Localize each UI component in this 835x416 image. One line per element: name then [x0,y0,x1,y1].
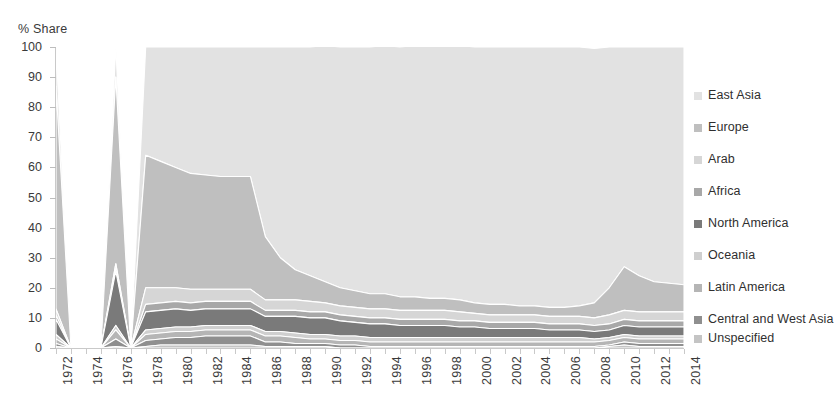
x-axis-tick-label: 2010 [629,356,643,385]
x-axis-tick-mark [415,349,416,354]
legend-item[interactable]: Central and West Asia [694,312,834,327]
x-axis-tick-mark [131,349,132,354]
y-axis-tick-label: 40 [8,221,42,235]
y-axis-tick-label: 100 [8,40,42,54]
x-axis-tick-label: 1984 [240,356,254,385]
legend-swatch-icon [694,284,702,292]
legend-item-label: Latin America [708,280,785,295]
legend-item-label: Central and West Asia [708,312,834,327]
x-axis-tick-mark [684,349,685,354]
x-axis-tick-mark [280,349,281,354]
x-axis-tick-label: 1976 [121,356,135,385]
x-axis-tick-label: 1974 [91,356,105,385]
legend-swatch-icon [694,92,702,100]
y-axis-tick-label: 50 [8,191,42,205]
x-axis-tick-label: 1972 [61,356,75,385]
x-axis-tick-mark [220,349,221,354]
legend-item-label: North America [708,216,789,231]
x-axis-tick-mark [624,349,625,354]
x-axis-tick-label: 1990 [330,356,344,385]
x-axis-tick-mark [265,349,266,354]
x-axis-tick-mark [490,349,491,354]
legend-item-label: Unspecified [708,331,774,346]
x-axis-tick-mark [146,349,147,354]
x-axis-tick-label: 1994 [390,356,404,385]
x-axis-tick-mark [445,349,446,354]
x-axis-tick-label: 2004 [539,356,553,385]
x-axis-tick-mark [475,349,476,354]
legend-item[interactable]: North America [694,216,834,231]
x-axis-tick-label: 1986 [270,356,284,385]
x-axis-tick-mark [594,349,595,354]
x-axis-tick-mark [520,349,521,354]
x-axis-tick-label: 1980 [181,356,195,385]
x-axis-tick-label: 1992 [360,356,374,385]
x-axis-tick-mark [579,349,580,354]
x-axis-tick-mark [669,349,670,354]
x-axis-tick-mark [101,349,102,354]
x-axis-tick-mark [206,349,207,354]
x-axis-tick-mark [86,349,87,354]
legend-item[interactable]: Unspecified [694,331,834,346]
legend-item[interactable]: Africa [694,184,834,199]
x-axis-tick-mark [370,349,371,354]
x-axis-tick-mark [400,349,401,354]
legend-swatch-icon [694,188,702,196]
y-axis-tick-label: 60 [8,160,42,174]
x-axis-tick-mark [116,349,117,354]
legend-swatch-icon [694,156,702,164]
x-axis-tick-mark [460,349,461,354]
legend-item-label: Europe [708,120,749,135]
x-axis-tick-mark [385,349,386,354]
x-axis-tick-label: 2008 [599,356,613,385]
x-axis-tick-mark [609,349,610,354]
legend-swatch-icon [694,252,702,260]
legend-item[interactable]: Arab [694,152,834,167]
x-axis-tick-label: 1978 [151,356,165,385]
x-axis-tick-mark [639,349,640,354]
x-axis-tick-label: 2012 [659,356,673,385]
x-axis-tick-label: 2002 [510,356,524,385]
x-axis-tick-mark [534,349,535,354]
x-axis-tick-mark [654,349,655,354]
x-axis-tick-mark [191,349,192,354]
x-axis-tick-mark [176,349,177,354]
x-axis-tick-mark [325,349,326,354]
x-axis-tick-mark [161,349,162,354]
legend-swatch-icon [694,124,702,132]
plot-area [56,47,684,348]
y-axis-tick-label: 70 [8,130,42,144]
legend-swatch-icon [694,335,702,343]
x-axis-tick-mark [340,349,341,354]
x-axis-tick-mark [564,349,565,354]
legend-item-label: Africa [708,184,741,199]
y-axis-tick-label: 30 [8,251,42,265]
legend-item[interactable]: Latin America [694,280,834,295]
legend-swatch-icon [694,220,702,228]
y-axis-tick-label: 90 [8,70,42,84]
legend-item[interactable]: Oceania [694,248,834,263]
x-axis-tick-label: 1998 [450,356,464,385]
x-axis-tick-mark [250,349,251,354]
x-axis-tick-mark [235,349,236,354]
x-axis-tick-mark [56,349,57,354]
x-axis-tick-mark [71,349,72,354]
x-axis-tick-label: 2006 [569,356,583,385]
x-axis-tick-mark [549,349,550,354]
y-axis-tick-label: 10 [8,311,42,325]
x-axis-tick-mark [310,349,311,354]
x-axis-tick-label: 2000 [480,356,494,385]
x-axis-tick-label: 1988 [300,356,314,385]
x-axis-tick-label: 1996 [420,356,434,385]
legend-item-label: East Asia [708,88,761,103]
stacked-area-svg [56,47,684,348]
legend-item-label: Arab [708,152,735,167]
y-axis-title: % Share [18,22,67,36]
x-axis-tick-mark [430,349,431,354]
y-axis-tick-label: 20 [8,281,42,295]
legend-item[interactable]: Europe [694,120,834,135]
chart-legend: East AsiaEuropeArabAfricaNorth AmericaOc… [694,88,834,363]
chart-page: % Share 0102030405060708090100 197219741… [0,0,835,416]
legend-item[interactable]: East Asia [694,88,834,103]
x-axis-tick-label: 1982 [211,356,225,385]
